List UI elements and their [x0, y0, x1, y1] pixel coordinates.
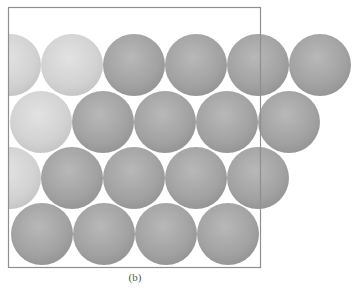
sphere-light — [41, 34, 103, 96]
figure-caption: (b) — [0, 271, 270, 283]
sphere-dark — [73, 203, 135, 265]
sphere-dark — [41, 147, 103, 209]
sphere-dark — [289, 34, 351, 96]
sphere-packing-diagram — [0, 0, 355, 291]
sphere-dark — [135, 203, 197, 265]
sphere-dark — [103, 34, 165, 96]
sphere-light — [0, 147, 41, 209]
sphere-dark — [72, 91, 134, 153]
sphere-dark — [11, 203, 73, 265]
sphere-dark — [196, 91, 258, 153]
sphere-dark — [165, 34, 227, 96]
sphere-dark — [103, 147, 165, 209]
sphere-dark — [227, 147, 289, 209]
sphere-dark — [227, 34, 289, 96]
sphere-light — [0, 34, 41, 96]
sphere-light — [10, 91, 72, 153]
sphere-dark — [134, 91, 196, 153]
sphere-dark — [197, 203, 259, 265]
sphere-dark — [258, 91, 320, 153]
sphere-dark — [165, 147, 227, 209]
sphere-layer — [0, 34, 351, 265]
